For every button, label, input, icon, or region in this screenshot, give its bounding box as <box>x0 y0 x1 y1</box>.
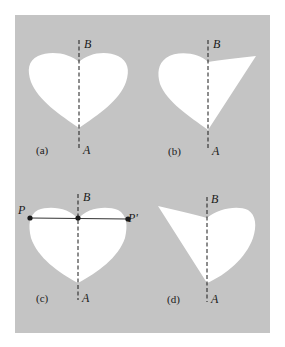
symmetry-figure: B A (a) B A (b) B A (c) P P' B A (d) <box>0 0 285 347</box>
label-b-c: B <box>83 190 91 204</box>
label-a-b: A <box>211 144 220 158</box>
heart-shape-b <box>158 53 256 130</box>
label-a-d: A <box>210 292 219 306</box>
caption-a: (a) <box>36 144 49 157</box>
panel-d: B A (d) <box>158 192 255 306</box>
label-p: P <box>17 203 26 217</box>
caption-b: (b) <box>168 145 181 158</box>
label-b-a: B <box>84 37 92 51</box>
label-a-a: A <box>82 143 91 157</box>
label-b-d: B <box>211 192 219 206</box>
label-a-c: A <box>81 291 90 305</box>
label-p-prime: P' <box>127 211 138 225</box>
caption-c: (c) <box>36 292 49 305</box>
heart-shape-a <box>29 53 128 128</box>
panel-a: B A (a) <box>29 37 128 157</box>
panel-c: B A (c) P P' <box>17 190 138 305</box>
point-center <box>75 215 80 220</box>
point-p <box>27 215 32 220</box>
panel-b: B A (b) <box>158 37 256 158</box>
caption-d: (d) <box>167 293 180 306</box>
label-b-b: B <box>213 37 221 51</box>
